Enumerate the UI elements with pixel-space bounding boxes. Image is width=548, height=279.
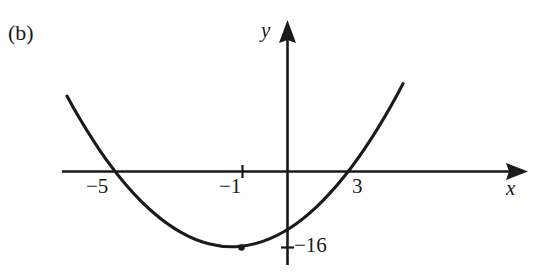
parabola-curve <box>67 84 403 247</box>
tick-label-3: 3 <box>352 176 363 197</box>
tick-label-neg-5: −5 <box>86 176 108 197</box>
figure-canvas: (b) y x −5 −1 3 −16 <box>0 0 548 279</box>
tick-label-neg-1: −1 <box>219 176 241 197</box>
tick-label-neg-16: −16 <box>294 235 327 256</box>
parabola-graph <box>0 0 548 279</box>
y-axis-label: y <box>261 20 270 41</box>
vertex-point-dot <box>238 244 245 251</box>
x-axis-label: x <box>506 178 515 199</box>
part-label: (b) <box>8 22 34 44</box>
y-axis-arrowhead <box>279 20 296 43</box>
